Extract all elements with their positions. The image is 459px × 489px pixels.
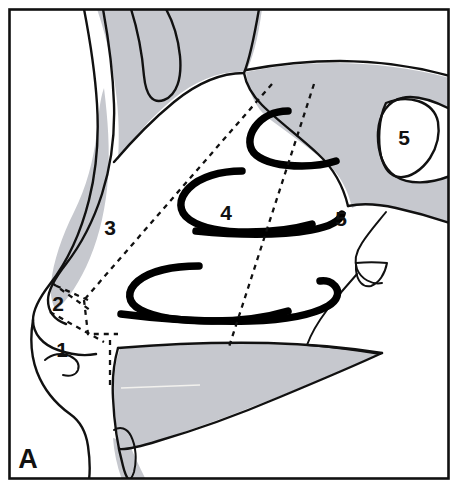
figure-panel-a: 1 2 3 4 5 5 A [0,0,459,489]
label-1: 1 [56,338,68,361]
label-2: 2 [52,292,64,315]
label-4: 4 [220,201,232,224]
label-3: 3 [104,216,116,239]
panel-letter-a: A [18,444,38,474]
label-5-nasopharynx: 5 [335,207,347,230]
label-5-sphenoid: 5 [398,126,410,149]
nasal-cavity-sagittal-diagram: 1 2 3 4 5 5 A [0,0,459,489]
